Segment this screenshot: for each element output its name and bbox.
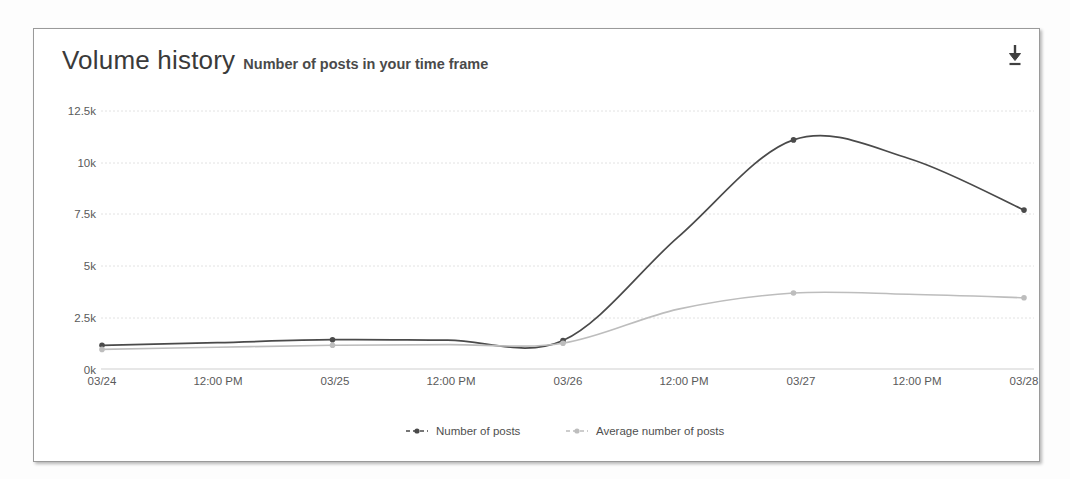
y-tick-label: 7.5k — [74, 208, 96, 220]
data-point-marker[interactable] — [330, 343, 336, 349]
y-tick-label: 2.5k — [74, 312, 96, 324]
legend-label: Average number of posts — [596, 425, 725, 437]
series-average-number-of-posts — [99, 290, 1027, 352]
gridlines — [101, 111, 1034, 318]
data-point-marker[interactable] — [330, 337, 336, 343]
y-tick-label: 12.5k — [68, 105, 96, 117]
x-tick-label: 03/24 — [88, 375, 117, 387]
series-line — [102, 136, 1024, 348]
x-tick-label: 03/28 — [1010, 375, 1039, 387]
y-tick-label: 5k — [84, 260, 96, 272]
legend-label: Number of posts — [436, 425, 521, 437]
x-tick-label: 03/25 — [321, 375, 350, 387]
x-tick-label: 12:00 PM — [659, 375, 708, 387]
x-tick-label: 03/27 — [787, 375, 816, 387]
y-axis-ticks: 12.5k 10k 7.5k 5k 2.5k 0k — [68, 105, 96, 376]
volume-history-card: Volume history Number of posts in your t… — [33, 28, 1040, 462]
y-tick-label: 10k — [77, 157, 96, 169]
data-point-marker[interactable] — [791, 137, 797, 143]
line-chart-svg: 12.5k 10k 7.5k 5k 2.5k 0k 03/24 12:00 PM… — [34, 29, 1041, 463]
legend-item-number-of-posts[interactable]: Number of posts — [406, 425, 521, 437]
x-tick-label: 12:00 PM — [193, 375, 242, 387]
screenshot-canvas: Volume history Number of posts in your t… — [0, 0, 1070, 479]
x-tick-label: 03/26 — [554, 375, 583, 387]
x-axis-ticks: 03/24 12:00 PM 03/25 12:00 PM 03/26 12:0… — [88, 375, 1039, 387]
data-point-marker[interactable] — [791, 290, 797, 296]
x-tick-label: 12:00 PM — [892, 375, 941, 387]
legend-item-average-number-of-posts[interactable]: Average number of posts — [566, 425, 725, 437]
chart-plot-area: 12.5k 10k 7.5k 5k 2.5k 0k 03/24 12:00 PM… — [34, 29, 1041, 463]
data-point-marker[interactable] — [560, 340, 566, 346]
data-point-marker[interactable] — [1021, 295, 1027, 301]
data-point-marker[interactable] — [99, 347, 105, 353]
chart-legend: Number of posts Average number of posts — [406, 425, 725, 437]
series-number-of-posts — [99, 136, 1027, 348]
series-layer — [99, 136, 1027, 353]
data-point-marker[interactable] — [1021, 207, 1027, 213]
x-tick-label: 12:00 PM — [426, 375, 475, 387]
